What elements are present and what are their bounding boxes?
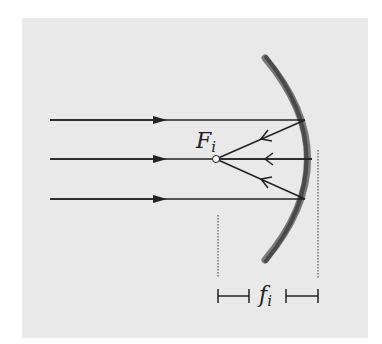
focal-point bbox=[213, 156, 220, 163]
focal-point-label: Fi bbox=[196, 130, 216, 155]
reflected-rays bbox=[216, 120, 312, 199]
mirror-diagram bbox=[0, 0, 382, 344]
focal-length-label: fi bbox=[259, 284, 272, 309]
